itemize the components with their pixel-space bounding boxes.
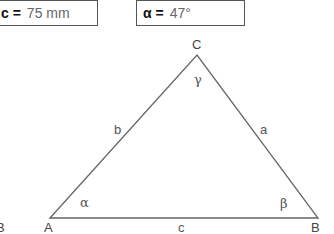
angle-gamma-symbol: γ — [194, 72, 202, 87]
vertex-a-label: A — [44, 220, 53, 234]
angle-beta-symbol: β — [280, 196, 288, 211]
triangle-shape — [50, 55, 318, 218]
vertex-c-label: C — [192, 37, 201, 52]
clipped-b-label: B — [0, 220, 5, 234]
vertex-b-label: B — [311, 220, 320, 234]
side-c-diagram-label: c — [178, 220, 185, 234]
side-b-label: b — [114, 122, 121, 137]
side-a-label: a — [260, 122, 268, 137]
triangle-diagram: C A B B b a c α β γ — [0, 0, 334, 234]
angle-alpha-symbol: α — [80, 195, 89, 210]
